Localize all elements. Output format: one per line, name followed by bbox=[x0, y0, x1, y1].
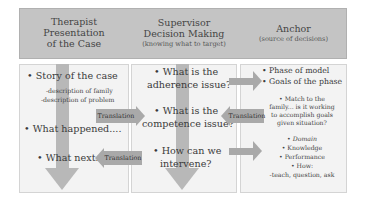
translation-arrow-3: Translation bbox=[104, 151, 142, 165]
header-supervisor: Supervisor Decision Making (knowing what… bbox=[131, 8, 237, 59]
arrow-left-icon bbox=[95, 148, 104, 168]
header-therapist: Therapist Presentation of the Case bbox=[19, 8, 129, 59]
therapist-desc-family: -description of family bbox=[46, 87, 113, 94]
translation-arrow-2: Translation bbox=[230, 109, 264, 123]
header-supervisor-subtitle: (knowing what to target) bbox=[142, 41, 225, 49]
therapist-story: • Story of the case bbox=[27, 70, 118, 81]
anchor-domain: • Domain bbox=[262, 135, 342, 142]
header-anchor: Anchor (source of decisions) bbox=[240, 8, 347, 59]
anchor-match-1: • Match to the bbox=[262, 95, 342, 102]
supervisor-intervene-2: intervene? bbox=[160, 158, 211, 169]
supervisor-adherence-2: adherence issue? bbox=[147, 79, 231, 90]
anchor-how-detail: -teach, question, ask bbox=[262, 171, 342, 178]
arrow-right-icon bbox=[136, 106, 145, 126]
translation-arrow-1: Translation bbox=[96, 109, 136, 123]
header-therapist-title-1: Therapist Presentation bbox=[19, 17, 129, 39]
anchor-goals: • Goals of the phase bbox=[262, 77, 342, 86]
anchor-performance: • Performance bbox=[262, 153, 342, 160]
header-anchor-title: Anchor bbox=[276, 24, 311, 35]
arrow-adherence-to-anchor-shaft bbox=[229, 78, 253, 85]
anchor-match-3: to accomplish goals bbox=[262, 111, 342, 118]
anchor-knowledge: • Knowledge bbox=[262, 144, 342, 151]
anchor-match-4: given situation? bbox=[262, 119, 342, 126]
supervisor-flow-arrow-head-icon bbox=[165, 168, 199, 190]
therapist-what-next: • What next.. bbox=[37, 152, 102, 163]
header-anchor-subtitle: (source of decisions) bbox=[259, 36, 328, 44]
header-supervisor-title-2: Decision Making bbox=[144, 29, 225, 40]
arrow-intervene-to-anchor-shaft bbox=[229, 148, 253, 155]
supervisor-competence-1: • What is the bbox=[154, 105, 218, 116]
therapist-flow-arrow-head-icon bbox=[45, 168, 79, 190]
arrow-right-icon bbox=[253, 71, 262, 91]
header-therapist-title-2: of the Case bbox=[47, 39, 101, 50]
supervisor-intervene-1: • How can we bbox=[153, 145, 221, 156]
supervisor-adherence-1: • What is the bbox=[154, 66, 218, 77]
therapist-desc-problem: -description of problem bbox=[41, 96, 115, 103]
anchor-match-2: family... is it working bbox=[262, 103, 342, 110]
therapist-what-happened: • What happened.... bbox=[24, 123, 121, 134]
anchor-how: • How: bbox=[262, 162, 342, 169]
anchor-phase: • Phase of model bbox=[262, 66, 329, 75]
arrow-right-icon bbox=[253, 141, 262, 161]
